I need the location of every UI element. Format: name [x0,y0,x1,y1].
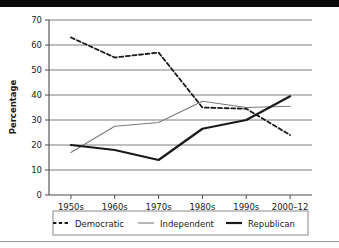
y-tick-label: 20 [31,140,42,150]
x-axis-ticks: 1950s1960s1970s1980s1990s2000–12 [58,195,309,212]
chart-figure: 010203040506070 1950s1960s1970s1980s1990… [0,7,339,241]
y-tick-label: 0 [37,190,42,200]
y-tick-label: 30 [31,115,42,125]
legend-label-independent: Independent [160,219,215,229]
y-tick-label: 40 [31,90,42,100]
y-tick-label: 70 [31,15,42,25]
y-axis-ticks: 010203040506070 [31,15,49,200]
page-bottom-rule [0,241,339,242]
legend-items: DemocraticIndependentRepublican [53,219,295,229]
y-tick-label: 10 [31,165,42,175]
y-tick-label: 50 [31,65,42,75]
legend-label-democratic: Democratic [75,219,124,229]
y-axis-title: Percentage [8,79,18,134]
line-chart: 010203040506070 1950s1960s1970s1980s1990… [0,7,339,241]
page-canvas: 010203040506070 1950s1960s1970s1980s1990… [0,0,339,248]
page-top-band [0,0,339,7]
y-tick-label: 60 [31,40,42,50]
legend-label-republican: Republican [248,219,295,229]
